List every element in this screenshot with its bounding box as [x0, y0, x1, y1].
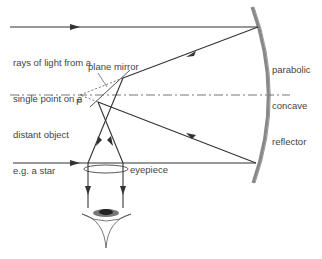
- mirror-ray-b: [98, 102, 123, 163]
- rays-label: rays of light from a single point on a d…: [13, 33, 91, 189]
- reflector-label: parabolic concave reflector: [272, 40, 311, 160]
- focus-label: F: [76, 96, 82, 108]
- eye-icon: [82, 209, 131, 248]
- reflected-ray-bottom: [98, 102, 256, 163]
- plane-mirror-label: plane mirror: [88, 61, 139, 73]
- reflected-ray-top: [123, 27, 258, 78]
- eyepiece-label: eyepiece: [130, 164, 168, 176]
- plane-mirror-pointer: [98, 73, 107, 87]
